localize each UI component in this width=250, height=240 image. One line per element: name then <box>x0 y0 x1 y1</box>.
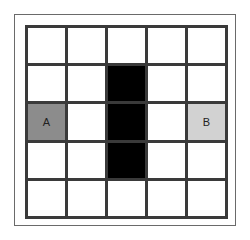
grid-cell <box>68 143 105 178</box>
grid-cell <box>28 143 65 178</box>
grid-cell <box>108 181 145 216</box>
grid-cell <box>188 181 225 216</box>
grid-cell <box>28 28 65 63</box>
wall-cell <box>108 104 145 139</box>
grid-cell <box>68 181 105 216</box>
grid-cell <box>188 143 225 178</box>
grid-cell <box>188 28 225 63</box>
grid-cell <box>148 66 185 101</box>
grid-cell <box>148 28 185 63</box>
grid-cell <box>188 66 225 101</box>
grid-cell <box>28 66 65 101</box>
grid-world: AB <box>25 25 228 219</box>
wall-cell <box>108 143 145 178</box>
grid-cell <box>68 104 105 139</box>
wall-cell <box>108 66 145 101</box>
grid-cell <box>148 181 185 216</box>
grid-cell <box>68 28 105 63</box>
start-cell-a: A <box>28 104 65 139</box>
grid-cell <box>148 143 185 178</box>
grid-cell <box>148 104 185 139</box>
cell-label: B <box>203 116 210 128</box>
grid-cell <box>108 28 145 63</box>
grid-cell <box>28 181 65 216</box>
cell-label: A <box>43 116 50 128</box>
goal-cell-b: B <box>188 104 225 139</box>
grid-cell <box>68 66 105 101</box>
